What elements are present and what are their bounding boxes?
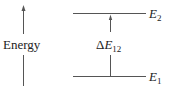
energy-axis-label: Energy	[3, 38, 40, 51]
gap-arrowhead-icon	[109, 15, 112, 21]
level-e1-label: E1	[149, 70, 161, 86]
level-e1-symbol: E	[149, 69, 157, 84]
level-e2-symbol: E	[149, 6, 157, 21]
level-e2-subscript: 2	[157, 13, 162, 23]
energy-axis-arrowhead-icon	[22, 5, 26, 11]
level-e2-label: E2	[149, 7, 161, 23]
level-e1-subscript: 1	[157, 76, 162, 86]
gap-label: ΔE12	[96, 38, 121, 54]
gap-subscript: 12	[112, 44, 121, 54]
